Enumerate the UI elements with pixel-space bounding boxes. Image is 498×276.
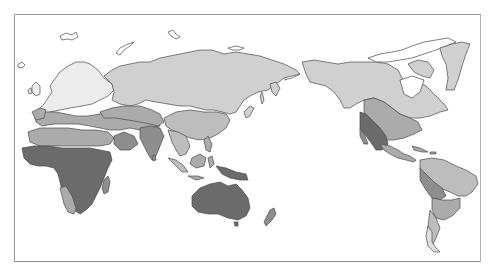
south-america-central <box>432 198 460 220</box>
arabia <box>114 132 138 150</box>
sulawesi <box>208 156 214 168</box>
eurasia-north <box>104 50 300 114</box>
novaya-zemlya <box>116 42 134 55</box>
australia <box>192 182 250 220</box>
cuba <box>412 146 428 152</box>
franz-josef-island <box>168 30 180 39</box>
south-asia <box>140 126 164 160</box>
north-africa-sahel <box>28 128 114 146</box>
new-guinea <box>216 166 248 180</box>
sakhalin <box>260 92 264 104</box>
greenland <box>440 42 470 90</box>
japan <box>244 106 254 118</box>
borneo <box>190 154 206 168</box>
hispaniola <box>430 152 436 154</box>
severnaya-island <box>228 46 244 50</box>
baffin-island <box>408 60 434 78</box>
iberia <box>32 108 46 120</box>
iceland <box>18 62 25 68</box>
ireland <box>28 88 32 94</box>
philippines <box>204 136 212 152</box>
new-zealand <box>264 208 276 226</box>
britain <box>32 82 40 96</box>
kamchatka <box>270 82 280 96</box>
world-map <box>0 0 498 276</box>
sumatra <box>168 158 188 172</box>
svalbard-island <box>60 32 78 40</box>
tasmania <box>234 222 238 226</box>
northern-europe <box>38 62 114 114</box>
central-america <box>380 144 416 162</box>
sri-lanka <box>152 155 156 161</box>
java <box>188 176 204 180</box>
